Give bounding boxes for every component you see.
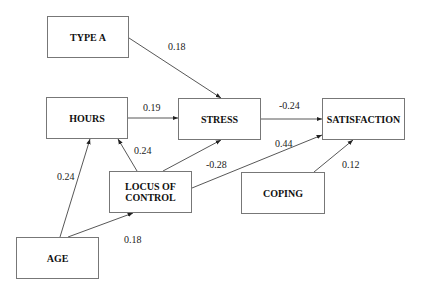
node-label: SATISFACTION [327,114,401,125]
node-hours: HOURS [46,97,128,139]
node-label: AGE [47,253,69,264]
coef-locus-to-satisfaction: 0.44 [275,139,293,149]
node-label: LOCUS OF CONTROL [121,181,181,203]
coef-stress-to-satisfaction: -0.24 [279,101,300,111]
node-stress: STRESS [178,98,261,140]
coef-hours-to-stress: 0.19 [143,103,161,113]
path-diagram: 0.180.19-0.240.24-0.280.440.120.240.18TY… [0,0,421,296]
node-label: COPING [263,188,303,199]
node-satisfaction: SATISFACTION [322,98,405,140]
node-locus: LOCUS OF CONTROL [109,171,192,213]
node-label: STRESS [201,114,238,125]
node-label: HOURS [69,113,105,124]
coef-age-to-hours: 0.24 [57,172,75,182]
coef-age-to-locus: 0.18 [124,235,142,245]
node-coping: COPING [241,172,325,214]
coef-type_a-to-stress: 0.18 [168,42,186,52]
node-type-a: TYPE A [47,16,129,58]
coef-coping-to-satisfaction: 0.12 [342,160,360,170]
node-age: AGE [16,237,99,279]
node-label: TYPE A [70,32,106,43]
coef-locus-to-stress: -0.28 [206,160,227,170]
edge-age-to-hours [60,139,90,237]
coef-locus-to-hours: 0.24 [134,146,152,156]
